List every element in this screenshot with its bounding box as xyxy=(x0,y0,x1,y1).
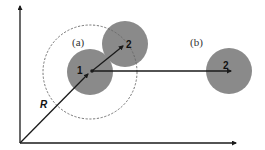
position-vector-label: R xyxy=(40,99,48,110)
position-vector-R xyxy=(20,74,88,143)
particle-2a-label: 2 xyxy=(126,39,132,50)
case-b-label: (b) xyxy=(190,36,203,49)
particle-1-label: 1 xyxy=(77,65,83,76)
particle-diagram: (a) (b) 1 2 2 R xyxy=(0,0,265,150)
particle-2b-label: 2 xyxy=(223,60,229,71)
particle-1-center-dot xyxy=(90,69,94,73)
case-a-label: (a) xyxy=(72,36,85,49)
